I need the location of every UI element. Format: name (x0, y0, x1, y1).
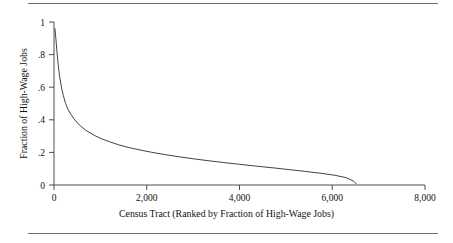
y-tick-label: .6 (38, 83, 45, 93)
x-tick-label: 6,000 (322, 193, 344, 203)
y-tick-label: .2 (38, 148, 45, 158)
bottom-horizontal-rule (28, 233, 438, 234)
y-tick-label: 0 (40, 181, 45, 191)
x-tick-label: 0 (52, 193, 57, 203)
line-chart-svg: 1 .8 .6 .4 .2 0 0 (0, 8, 453, 204)
y-axis-tick-labels: 1 .8 .6 .4 .2 0 (38, 18, 45, 191)
plot-area: 1 .8 .6 .4 .2 0 0 (0, 8, 453, 204)
x-axis-group: 0 2,000 4,000 6,000 8,000 (52, 185, 436, 203)
x-tick-label: 8,000 (414, 193, 436, 203)
y-axis-group: 1 .8 .6 .4 .2 0 (38, 18, 54, 191)
x-axis-title: Census Tract (Ranked by Fraction of High… (0, 208, 453, 219)
figure-container: 1 .8 .6 .4 .2 0 0 (0, 0, 453, 243)
y-axis-ticks (49, 22, 54, 185)
x-tick-label: 2,000 (136, 193, 158, 203)
data-series-line (55, 29, 356, 184)
x-axis-ticks (54, 185, 425, 190)
y-tick-label: .4 (38, 115, 45, 125)
y-axis-title: Fraction of High-Wage Jobs (18, 19, 29, 189)
x-axis-tick-labels: 0 2,000 4,000 6,000 8,000 (52, 193, 436, 203)
x-tick-label: 4,000 (229, 193, 251, 203)
top-horizontal-rule (28, 3, 438, 4)
y-tick-label: 1 (40, 18, 45, 28)
y-tick-label: .8 (38, 50, 45, 60)
